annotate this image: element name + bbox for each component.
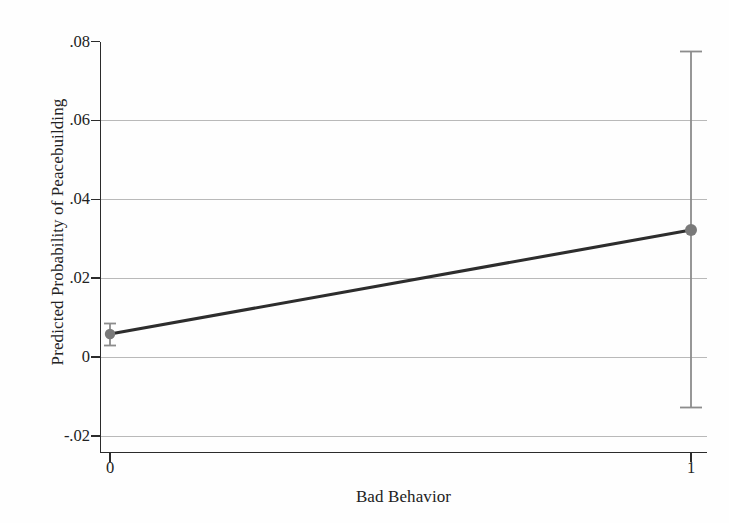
series-line [110, 230, 691, 334]
gridlines [100, 120, 707, 436]
x-tick-label-0: 0 [90, 458, 130, 478]
data-point-x1 [685, 224, 697, 236]
chart-figure: .08 .06 .04 .02 0 -.02 0 1 Predicted Pro… [0, 0, 729, 523]
x-tick-label-1: 1 [671, 458, 711, 478]
x-tick-marks [110, 452, 691, 462]
y-axis-title: Predicted Probability of Peacebuilding [38, 12, 78, 452]
data-point-x0 [105, 329, 115, 339]
x-axis-title: Bad Behavior [100, 487, 707, 507]
y-tick-marks [91, 42, 100, 437]
chart-plot-area [0, 0, 729, 523]
